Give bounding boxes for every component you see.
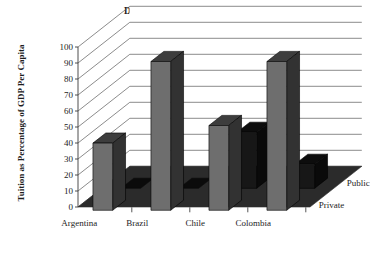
- series-label-public: Public: [347, 178, 370, 188]
- chart-plot-area: 0102030405060708090100 ArgentinaBrazilCh…: [0, 0, 374, 273]
- category-label-argentina: Argentina: [61, 218, 97, 228]
- category-label-brazil: Brazil: [126, 218, 148, 228]
- y-tick-label: 10: [64, 186, 74, 196]
- y-tick-label: 70: [64, 90, 74, 100]
- bar-private-chile: [209, 115, 242, 210]
- y-tick-label: 0: [69, 202, 74, 212]
- y-tick-label: 80: [64, 74, 74, 84]
- y-tick-label: 90: [64, 58, 74, 68]
- chart-page: Direct Costs for User (Tuition) Tuition …: [0, 0, 374, 273]
- category-label-chile: Chile: [185, 218, 205, 228]
- y-tick-label: 20: [64, 170, 74, 180]
- y-axis: [75, 47, 78, 207]
- y-tick-label: 30: [64, 154, 74, 164]
- bar-private-argentina: [93, 133, 126, 210]
- y-tick-label: 100: [60, 42, 74, 52]
- bar-private-brazil: [151, 51, 184, 210]
- y-tick-label: 60: [64, 106, 74, 116]
- y-tick-label: 50: [64, 122, 74, 132]
- category-label-colombia: Colombia: [235, 218, 271, 228]
- series-label-private: Private: [319, 200, 345, 210]
- y-tick-label: 40: [64, 138, 74, 148]
- y-tick-labels: 0102030405060708090100: [60, 42, 74, 212]
- bar-private-colombia: [267, 51, 300, 210]
